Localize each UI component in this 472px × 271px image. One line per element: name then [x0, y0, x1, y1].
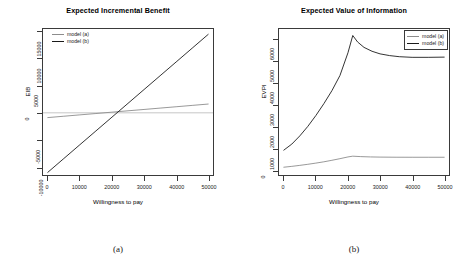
chart-title-a: Expected Incremental Benefit [0, 6, 236, 15]
x-tick-mark [315, 176, 316, 181]
legend-b: model (a)model (b) [404, 30, 448, 50]
x-tick-mark [144, 176, 145, 181]
legend-line-swatch [52, 34, 64, 35]
legend-label: model (a) [67, 31, 89, 38]
y-tick-label: 4000 [269, 92, 275, 104]
plot-lines-a [43, 29, 213, 175]
y-tick-label: 15000 [36, 41, 42, 56]
plot-area-b [278, 28, 450, 176]
y-tick-label: 10000 [36, 69, 42, 84]
x-tick-label: 0 [281, 184, 284, 190]
plot-area-a [42, 28, 214, 176]
y-tick-label: -10000 [38, 179, 44, 196]
chart-panel-b: Expected Value of Information EVPI Willi… [236, 0, 472, 232]
x-tick-mark [112, 176, 113, 181]
x-tick-mark [348, 176, 349, 181]
x-tick-label: 30000 [137, 184, 152, 190]
x-axis-label-a: Willingness to pay [0, 198, 236, 205]
x-tick-mark [47, 176, 48, 181]
x-tick-mark [380, 176, 381, 181]
x-tick-label: 20000 [340, 184, 355, 190]
y-tick-label: -5000 [35, 150, 41, 164]
y-tick-label: 0 [24, 118, 30, 121]
figure-panels: Expected Incremental Benefit EIB Willing… [0, 0, 472, 232]
legend-line-swatch [407, 36, 419, 37]
y-tick-mark [273, 127, 278, 128]
legend-item-a-0: model (a) [52, 31, 89, 38]
plot-lines-b [279, 29, 449, 175]
x-axis-label-b: Willingness to pay [236, 198, 472, 205]
y-tick-label: 1000 [269, 158, 275, 170]
figure-captions: (a) (b) [0, 232, 472, 271]
x-tick-label: 50000 [202, 184, 217, 190]
x-tick-label: 50000 [438, 184, 453, 190]
y-tick-label: 5000 [269, 70, 275, 82]
legend-item-a-1: model (b) [52, 38, 89, 45]
legend-line-swatch [407, 43, 419, 44]
legend-a: model (a)model (b) [52, 31, 89, 45]
y-tick-label: 0 [260, 175, 266, 178]
series-line-a-0 [48, 104, 208, 118]
y-tick-mark [37, 31, 42, 32]
y-tick-label: 5000 [33, 95, 39, 107]
x-tick-mark [413, 176, 414, 181]
x-tick-label: 0 [45, 184, 48, 190]
y-tick-mark [37, 168, 42, 169]
y-tick-mark [273, 149, 278, 150]
y-tick-label: 2000 [269, 136, 275, 148]
y-tick-mark [37, 86, 42, 87]
y-tick-mark [37, 140, 42, 141]
y-axis-label-a: EIB [24, 77, 31, 107]
y-tick-mark [273, 61, 278, 62]
x-tick-mark [445, 176, 446, 181]
y-tick-mark [37, 113, 42, 114]
x-tick-label: 10000 [308, 184, 323, 190]
legend-line-swatch [52, 41, 64, 42]
x-tick-label: 40000 [405, 184, 420, 190]
series-line-b-0 [284, 156, 444, 167]
legend-item-b-1: model (b) [407, 40, 444, 47]
caption-a: (a) [0, 232, 236, 271]
y-tick-mark [37, 58, 42, 59]
x-tick-label: 40000 [169, 184, 184, 190]
y-tick-mark [273, 83, 278, 84]
y-tick-mark [273, 39, 278, 40]
series-line-a-1 [48, 34, 208, 172]
legend-label: model (b) [67, 38, 89, 45]
y-tick-mark [273, 171, 278, 172]
x-tick-label: 20000 [104, 184, 119, 190]
y-tick-mark [273, 105, 278, 106]
y-axis-label-b: EVPI [260, 77, 267, 107]
series-line-b-1 [284, 35, 444, 150]
x-tick-mark [177, 176, 178, 181]
x-tick-mark [283, 176, 284, 181]
legend-label: model (a) [422, 33, 444, 40]
chart-title-b: Expected Value of Information [236, 6, 472, 15]
y-tick-label: 3000 [269, 114, 275, 126]
caption-b: (b) [236, 232, 472, 271]
x-tick-mark [79, 176, 80, 181]
y-tick-label: 6000 [269, 48, 275, 60]
legend-item-b-0: model (a) [407, 33, 444, 40]
x-tick-label: 30000 [373, 184, 388, 190]
chart-panel-a: Expected Incremental Benefit EIB Willing… [0, 0, 236, 232]
x-tick-mark [209, 176, 210, 181]
x-tick-label: 10000 [72, 184, 87, 190]
legend-label: model (b) [422, 40, 444, 47]
